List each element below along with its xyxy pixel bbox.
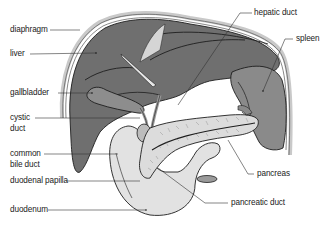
- label-common-bile-duct-1: common: [10, 149, 41, 159]
- label-liver: liver: [10, 49, 25, 59]
- label-pancreas: pancreas: [257, 169, 290, 179]
- leader-pancreas: [228, 140, 254, 174]
- label-spleen: spleen: [296, 34, 320, 44]
- label-duodenum: duodenum: [10, 205, 48, 215]
- anatomy-diagram: diaphragm liver gallbladder cystic duct …: [0, 0, 333, 234]
- label-cystic-duct-1: cystic: [10, 113, 30, 123]
- label-duodenal-papilla: duodenal papilla: [10, 176, 68, 186]
- label-diaphragm: diaphragm: [10, 25, 48, 35]
- label-hepatic-duct: hepatic duct: [254, 8, 297, 18]
- label-common-bile-duct-2: bile duct: [10, 160, 40, 170]
- label-cystic-duct-2: duct: [10, 124, 25, 134]
- label-gallbladder: gallbladder: [10, 88, 49, 98]
- label-pancreatic-duct: pancreatic duct: [231, 198, 285, 208]
